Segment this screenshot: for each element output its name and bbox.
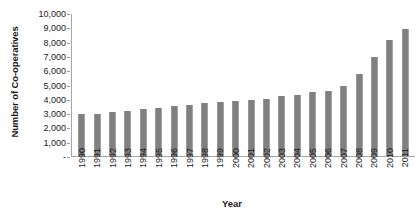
y-tick-label: 2,000 <box>18 123 66 133</box>
y-axis-ticks: 10,0009,0008,0007,0006,0005,0004,0003,00… <box>18 7 70 157</box>
y-tick-label: 7,000 <box>18 52 66 62</box>
x-label-slot: 2004 <box>290 158 305 194</box>
bar-chart: Number of Co-operatives 10,0009,0008,000… <box>0 0 420 220</box>
y-tick-label: 5,000 <box>18 81 66 91</box>
x-label-slot: 2009 <box>367 158 382 194</box>
bar-slot <box>89 14 104 156</box>
x-label-slot: 2001 <box>243 158 258 194</box>
bar-slot <box>228 14 243 156</box>
bar[interactable] <box>386 40 393 156</box>
bar[interactable] <box>371 57 378 156</box>
bar-slot <box>136 14 151 156</box>
x-tick-label: 2009 <box>369 148 379 182</box>
x-label-slot: 2003 <box>274 158 289 194</box>
y-tick-mark <box>67 57 70 58</box>
x-label-slot: 2010 <box>382 158 397 194</box>
bar-slot <box>336 14 351 156</box>
x-label-slot: 2002 <box>259 158 274 194</box>
x-label-slot: 1991 <box>89 158 104 194</box>
x-label-slot: 2011 <box>398 158 413 194</box>
x-tick-label: 1994 <box>138 148 148 182</box>
bar-slot <box>243 14 258 156</box>
x-label-slot: 1999 <box>213 158 228 194</box>
x-tick-label: 1999 <box>215 148 225 182</box>
x-tick-label: 2007 <box>339 148 349 182</box>
x-tick-label: 2001 <box>246 148 256 182</box>
y-tick-label: 10,000 <box>18 9 66 19</box>
bar-slot <box>290 14 305 156</box>
x-label-slot: 2000 <box>228 158 243 194</box>
x-tick-label: 1991 <box>92 148 102 182</box>
x-tick-label: 1993 <box>123 148 133 182</box>
bar-slot <box>182 14 197 156</box>
bar[interactable] <box>402 29 409 156</box>
y-tick-label: 9,000 <box>18 23 66 33</box>
y-tick-label: 4,000 <box>18 95 66 105</box>
x-tick-label: 2000 <box>231 148 241 182</box>
bar-slot <box>382 14 397 156</box>
y-tick-mark <box>67 14 70 15</box>
y-tick-label: 8,000 <box>18 38 66 48</box>
y-tick-label: - <box>18 152 66 162</box>
x-tick-label: 2003 <box>277 148 287 182</box>
bar-slot <box>74 14 89 156</box>
x-label-slot: 1998 <box>197 158 212 194</box>
y-tick-mark <box>67 114 70 115</box>
x-tick-label: 1995 <box>154 148 164 182</box>
x-label-slot: 1996 <box>166 158 181 194</box>
y-tick-mark <box>67 86 70 87</box>
x-tick-label: 2010 <box>385 148 395 182</box>
bar-slot <box>351 14 366 156</box>
x-tick-label: 1996 <box>169 148 179 182</box>
x-label-slot: 2006 <box>321 158 336 194</box>
x-label-slot: 1997 <box>182 158 197 194</box>
x-tick-label: 1998 <box>200 148 210 182</box>
y-tick-label: 6,000 <box>18 66 66 76</box>
x-label-slot: 1995 <box>151 158 166 194</box>
y-tick-mark <box>67 100 70 101</box>
y-tick-mark <box>67 71 70 72</box>
bar-slot <box>213 14 228 156</box>
x-label-slot: 2007 <box>336 158 351 194</box>
y-tick-mark <box>67 28 70 29</box>
bar-slot <box>166 14 181 156</box>
x-tick-label: 2008 <box>354 148 364 182</box>
x-tick-label: 1997 <box>185 148 195 182</box>
x-axis-ticks: 1990199119921993199419951996199719981999… <box>72 158 415 194</box>
bar[interactable] <box>356 74 363 156</box>
bar-slot <box>305 14 320 156</box>
x-axis-title: Year <box>0 198 420 210</box>
bar-slot <box>120 14 135 156</box>
y-tick-mark <box>67 143 70 144</box>
x-tick-label: 1990 <box>77 148 87 182</box>
x-tick-label: 1992 <box>108 148 118 182</box>
y-tick-mark <box>67 157 70 158</box>
bar-slot <box>197 14 212 156</box>
bar[interactable] <box>340 86 347 156</box>
bar-slot <box>321 14 336 156</box>
x-tick-label: 2011 <box>400 148 410 182</box>
x-label-slot: 1993 <box>120 158 135 194</box>
bar-slot <box>274 14 289 156</box>
bar-slot <box>367 14 382 156</box>
x-label-slot: 2005 <box>305 158 320 194</box>
x-label-slot: 1990 <box>74 158 89 194</box>
bar-slot <box>398 14 413 156</box>
y-tick-mark <box>67 128 70 129</box>
plot-area <box>71 14 415 157</box>
x-label-slot: 1992 <box>105 158 120 194</box>
x-label-slot: 1994 <box>136 158 151 194</box>
bar[interactable] <box>325 91 332 156</box>
x-tick-label: 2005 <box>308 148 318 182</box>
x-tick-label: 2004 <box>292 148 302 182</box>
bar-slot <box>105 14 120 156</box>
bar[interactable] <box>309 92 316 156</box>
y-tick-mark <box>67 43 70 44</box>
bar-slot <box>259 14 274 156</box>
bar-slot <box>151 14 166 156</box>
x-tick-label: 2002 <box>262 148 272 182</box>
y-tick-label: 1,000 <box>18 138 66 148</box>
bar[interactable] <box>294 95 301 156</box>
y-tick-label: 3,000 <box>18 109 66 119</box>
x-label-slot: 2008 <box>351 158 366 194</box>
